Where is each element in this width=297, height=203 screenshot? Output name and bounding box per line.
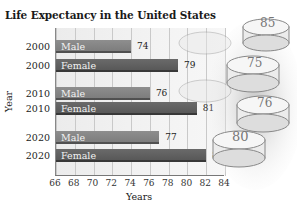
- x-axis-label: Years: [126, 191, 152, 202]
- cake-icon: 75: [227, 56, 279, 92]
- bar-2000-male: Male: [56, 40, 131, 53]
- x-tick-label: 68: [68, 178, 79, 188]
- cake-icon: 85: [243, 16, 289, 51]
- bar-series-label: Male: [61, 87, 85, 100]
- x-tick-label: 72: [106, 178, 117, 188]
- bar-value-label: 74: [137, 40, 148, 53]
- x-tick-label: 76: [143, 178, 154, 188]
- svg-text:85: 85: [260, 16, 275, 30]
- y-tick-label: 2020: [0, 149, 50, 162]
- cake-icon: 80: [213, 129, 265, 167]
- bar-series-label: Female: [61, 149, 96, 162]
- bar-series-label: Male: [61, 131, 85, 144]
- bar-2020-male: Male: [56, 131, 159, 144]
- svg-text:76: 76: [257, 96, 272, 110]
- y-tick-label: 2000: [0, 59, 50, 72]
- cake-icon: 76: [237, 96, 289, 132]
- x-tick-label: 78: [162, 178, 173, 188]
- bar-series-label: Male: [61, 40, 85, 53]
- x-tick-label: 66: [49, 178, 60, 188]
- y-axis-label: Year: [3, 91, 14, 112]
- svg-text:75: 75: [247, 56, 262, 70]
- bar-series-label: Female: [61, 102, 96, 115]
- svg-text:80: 80: [232, 129, 249, 144]
- bar-2010-male: Male: [56, 87, 150, 100]
- y-tick-label: 2000: [0, 40, 50, 53]
- x-tick-label: 74: [124, 178, 135, 188]
- bar-value-label: 76: [156, 87, 167, 100]
- bar-2000-female: Female: [56, 59, 178, 72]
- y-tick-label: 2020: [0, 131, 50, 144]
- x-tick-label: 70: [87, 178, 98, 188]
- bar-series-label: Female: [61, 59, 96, 72]
- birthday-cakes-illustration: 85 75 76 80: [175, 15, 297, 190]
